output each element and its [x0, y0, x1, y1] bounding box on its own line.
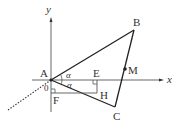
- x-axis-arrow-icon: [159, 79, 164, 82]
- y-axis-arrow-icon: [50, 17, 53, 22]
- point-a-label: A: [40, 67, 48, 79]
- x-axis-label: x: [166, 73, 172, 85]
- point-b-label: B: [133, 16, 140, 28]
- right-angle-f-icon: [51, 89, 55, 93]
- point-f-label: F: [53, 94, 59, 106]
- angle-arc-upper-icon: [61, 74, 63, 80]
- right-angle-e-icon: [93, 80, 97, 84]
- point-c-label: C: [113, 110, 120, 122]
- point-a-dot: [49, 78, 52, 81]
- geometry-diagram: y x 0 A B C M E F H α α: [0, 0, 177, 125]
- point-m-dot: [123, 67, 127, 71]
- y-axis-label: y: [45, 3, 51, 15]
- origin-label: 0: [44, 83, 49, 93]
- point-m-label: M: [128, 64, 138, 76]
- angle-alpha-upper-label: α: [66, 70, 71, 80]
- angle-arc-lower-icon: [61, 80, 62, 84]
- angle-alpha-lower-label: α: [67, 80, 72, 90]
- point-h-label: H: [100, 89, 108, 101]
- point-e-label: E: [93, 67, 100, 79]
